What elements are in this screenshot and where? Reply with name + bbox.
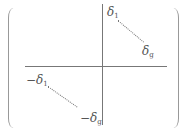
top-right-last-entry: δg — [142, 45, 154, 59]
bottom-left-last-entry: −δg — [80, 112, 102, 126]
bottom-left-diagonal-dots — [47, 86, 77, 107]
entry-subscript: g — [149, 51, 153, 59]
vertical-block-divider — [102, 4, 103, 125]
left-parenthesis — [8, 8, 19, 128]
top-right-diagonal-dots — [117, 20, 144, 43]
bottom-left-first-entry: −δ1 — [26, 74, 48, 88]
top-right-first-entry: δ1 — [107, 6, 119, 20]
entry-symbol: −δ — [26, 73, 43, 87]
entry-subscript: g — [97, 118, 101, 126]
right-parenthesis — [168, 8, 179, 128]
entry-subscript: 1 — [114, 12, 118, 20]
entry-symbol: −δ — [80, 111, 97, 125]
horizontal-block-divider — [25, 66, 167, 67]
